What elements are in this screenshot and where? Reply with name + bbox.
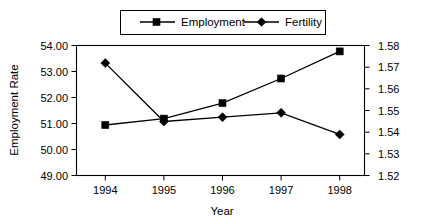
x-tick-label: 1996: [210, 184, 234, 196]
legend-label-employment: Employment: [181, 16, 246, 28]
right-tick-label: 1.56: [378, 83, 399, 95]
x-axis-title: Year: [210, 205, 233, 217]
right-tick-label: 1.53: [378, 148, 399, 160]
chart-container: Employment Fertility 54.00 53.00 52.00 5…: [0, 0, 432, 224]
data-point-employment-1996[interactable]: [219, 100, 226, 107]
x-tick-label: 1995: [152, 184, 176, 196]
right-tick-label: 1.55: [378, 105, 399, 117]
right-axis-labels: 1.58 1.57 1.56 1.55 1.54 1.53 1.52: [378, 40, 399, 182]
left-tick-label: 51.00: [40, 118, 68, 130]
data-point-employment-1994[interactable]: [102, 122, 109, 129]
left-axis-labels: 54.00 53.00 52.00 51.00 50.00 49.00: [40, 40, 68, 182]
line-chart: Employment Fertility 54.00 53.00 52.00 5…: [0, 0, 432, 224]
legend-label-fertility: Fertility: [285, 16, 322, 28]
right-tick-label: 1.58: [378, 40, 399, 52]
bottom-axis-ticks: [105, 176, 339, 181]
data-point-employment-1998[interactable]: [336, 48, 343, 55]
y-axis-title: Employment Rate: [8, 64, 20, 155]
left-axis-ticks: [72, 46, 77, 176]
x-tick-label: 1994: [93, 184, 117, 196]
left-tick-label: 52.00: [40, 92, 68, 104]
square-marker-icon: [153, 19, 160, 26]
chart-legend: Employment Fertility: [121, 11, 326, 35]
x-tick-label: 1997: [269, 184, 293, 196]
left-tick-label: 50.00: [40, 144, 68, 156]
left-tick-label: 53.00: [40, 66, 68, 78]
x-tick-label: 1998: [327, 184, 351, 196]
left-tick-label: 49.00: [40, 170, 68, 182]
right-tick-label: 1.57: [378, 61, 399, 73]
data-point-employment-1997[interactable]: [278, 75, 285, 82]
right-tick-label: 1.54: [378, 126, 399, 138]
right-axis-ticks: [365, 46, 370, 176]
bottom-axis-labels: 1994 1995 1996 1997 1998: [93, 184, 352, 196]
right-tick-label: 1.52: [378, 170, 399, 182]
left-tick-label: 54.00: [40, 40, 68, 52]
plot-frame: [77, 46, 365, 176]
